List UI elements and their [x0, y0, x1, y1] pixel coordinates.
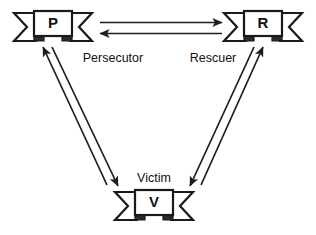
- edge-group-persecutor-victim: [43, 47, 118, 186]
- label-persecutor: Persecutor: [83, 51, 143, 65]
- node-persecutor[interactable]: P: [14, 11, 92, 41]
- edge-rescuer-to-victim: [190, 47, 254, 186]
- rescuer-left-tail: [224, 13, 246, 41]
- victim-right-tail: [171, 192, 193, 220]
- persecutor-left-tail: [14, 13, 36, 41]
- edge-group-persecutor-rescuer: [100, 23, 222, 34]
- edge-victim-to-persecutor: [43, 47, 107, 185]
- edge-group-rescuer-victim: [190, 47, 263, 186]
- victim-letter: V: [149, 193, 159, 210]
- persecutor-letter: P: [48, 14, 58, 31]
- victim-left-tail: [115, 192, 137, 220]
- edge-persecutor-to-victim: [52, 47, 118, 186]
- node-rescuer[interactable]: R: [224, 11, 302, 41]
- diagram-canvas: P R V Persecutor Rescuer Victim: [0, 0, 316, 235]
- node-victim[interactable]: V: [115, 190, 193, 220]
- drama-triangle-diagram: P R V Persecutor Rescuer Victim: [0, 0, 316, 235]
- rescuer-letter: R: [258, 14, 269, 31]
- edge-victim-to-rescuer: [201, 47, 263, 185]
- label-rescuer: Rescuer: [190, 51, 237, 65]
- rescuer-right-tail: [280, 13, 302, 41]
- persecutor-right-tail: [70, 13, 92, 41]
- label-victim: Victim: [137, 171, 171, 185]
